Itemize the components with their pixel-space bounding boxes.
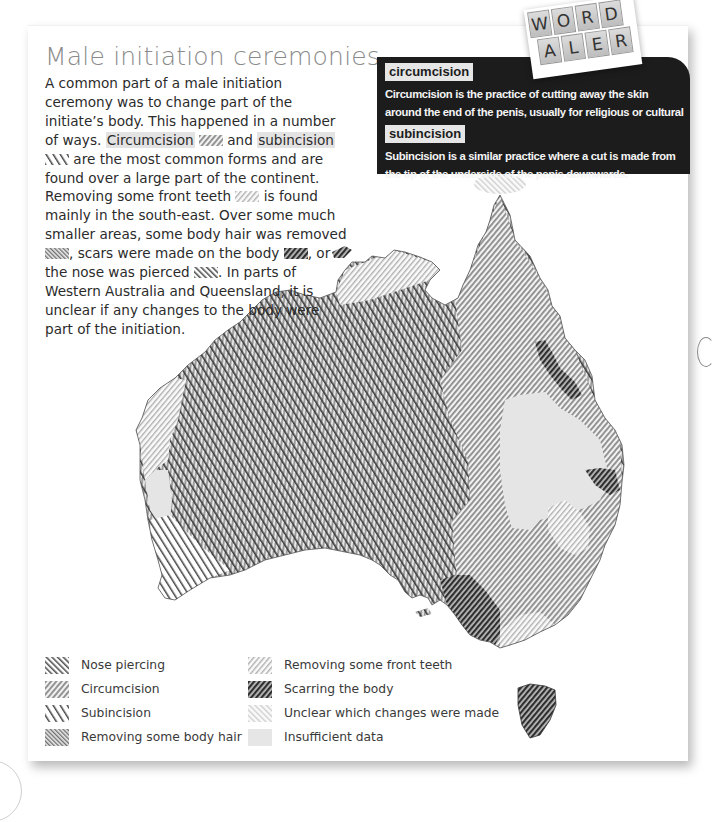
page-edge-mark [697, 337, 715, 367]
legend-label: Unclear which changes were made [284, 706, 499, 720]
circumcision-hatch-icon [45, 681, 69, 698]
body-hair-hatch-icon [45, 248, 69, 259]
word-alert-term: subincision [385, 125, 465, 143]
letter-tile: E [584, 30, 609, 59]
intro-text: and [223, 132, 257, 148]
legend-item-front-teeth: Removing some front teeth [248, 655, 452, 675]
intro-text: , scars were made on the body [69, 245, 284, 261]
body-hair-hatch-icon [45, 729, 69, 746]
legend-item-scarring: Scarring the body [248, 679, 393, 699]
front-teeth-hatch-icon [248, 657, 272, 674]
nose-piercing-hatch-icon [45, 657, 69, 674]
word-alert-definition: Subincision is a similar practice where … [385, 148, 685, 183]
circumcision-highlight: Circumcision [106, 132, 195, 148]
letter-tile: W [527, 9, 552, 38]
legend-item-insufficient-data: Insufficient data [248, 727, 383, 747]
decorative-arc [0, 760, 22, 822]
letter-tile: A [537, 36, 562, 65]
letter-tile: R [608, 26, 633, 55]
page-title: Male initiation ceremonies [45, 42, 380, 71]
nose-piercing-hatch-icon [194, 267, 218, 278]
legend-label: Subincision [81, 706, 151, 720]
scarring-hatch-icon [248, 681, 272, 698]
legend-label: Nose piercing [81, 658, 165, 672]
legend-label: Insufficient data [284, 730, 383, 744]
letter-tile: D [598, 0, 623, 28]
word-alert-term: circumcision [385, 63, 473, 81]
insufficient-data-swatch-icon [248, 729, 272, 746]
legend-label: Circumcision [81, 682, 160, 696]
front-teeth-hatch-icon [235, 191, 259, 202]
legend-item-body-hair: Removing some body hair [45, 727, 242, 747]
legend-label: Removing some body hair [81, 730, 242, 744]
subincision-hatch-icon [45, 705, 69, 722]
legend-label: Removing some front teeth [284, 658, 452, 672]
circumcision-hatch-icon [199, 135, 223, 146]
unclear-hatch-icon [248, 705, 272, 722]
letter-tile: L [561, 33, 586, 62]
intro-paragraph: A common part of a male initiation cerem… [45, 74, 350, 339]
letter-tile: O [551, 6, 576, 35]
legend-item-unclear: Unclear which changes were made [248, 703, 499, 723]
legend-item-subincision: Subincision [45, 703, 151, 723]
subincision-highlight: subincision [257, 132, 335, 148]
legend-item-nose-piercing: Nose piercing [45, 655, 165, 675]
legend-item-circumcision: Circumcision [45, 679, 160, 699]
subincision-hatch-icon [45, 154, 69, 165]
letter-tile: R [575, 3, 600, 32]
legend-label: Scarring the body [284, 682, 393, 696]
scarring-hatch-icon [284, 248, 308, 259]
